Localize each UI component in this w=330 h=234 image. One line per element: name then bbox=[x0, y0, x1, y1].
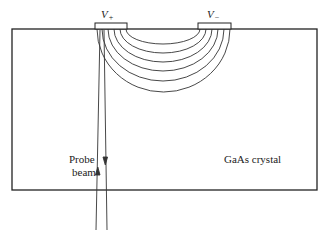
crystal-label: GaAs crystal bbox=[224, 153, 281, 165]
voltage-symbol: V bbox=[101, 8, 108, 20]
electrode-negative-label: V− bbox=[207, 8, 219, 24]
arrow-up-icon bbox=[96, 167, 101, 175]
probe-beam-label-line2: beam bbox=[72, 166, 96, 178]
probe-beam-label-line1: Probe bbox=[69, 153, 95, 165]
field-line-3 bbox=[114, 29, 212, 62]
electrode-positive-label: V+ bbox=[101, 8, 113, 24]
gaas-electro-optic-diagram bbox=[0, 0, 330, 234]
arrow-down-icon bbox=[103, 157, 108, 165]
field-line-2 bbox=[120, 29, 206, 53]
beam-return-line bbox=[96, 30, 100, 230]
field-lines bbox=[97, 29, 230, 92]
voltage-subscript: − bbox=[215, 13, 220, 22]
voltage-subscript: + bbox=[109, 13, 114, 22]
field-line-1 bbox=[126, 29, 200, 44]
voltage-symbol: V bbox=[207, 8, 214, 20]
